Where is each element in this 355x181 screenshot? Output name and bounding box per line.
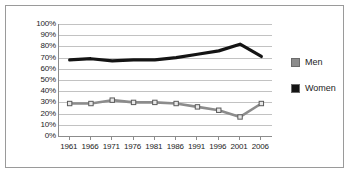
series-line-women	[70, 44, 262, 61]
y-axis-tick-label: 40%	[18, 87, 56, 95]
series-layer	[59, 24, 272, 136]
data-point-marker	[67, 101, 71, 105]
data-point-marker	[238, 115, 242, 119]
y-axis-tick-label: 100%	[18, 20, 56, 28]
x-axis-tick	[154, 136, 155, 140]
plot-area	[58, 24, 272, 137]
y-axis-tick-label: 70%	[18, 54, 56, 62]
y-axis-tick-label: 90%	[18, 31, 56, 39]
legend-label-women: Women	[305, 83, 336, 93]
data-point-marker	[89, 101, 93, 105]
legend-swatch-women	[291, 84, 300, 93]
x-axis-ticks	[58, 136, 272, 140]
y-axis-tick-label: 0%	[18, 132, 56, 140]
legend-item-men: Men	[291, 52, 345, 72]
data-point-marker	[259, 101, 263, 105]
y-axis-tick-label: 50%	[18, 76, 56, 84]
chart-container: 100%90%80%70%60%50%40%30%20%10%0% 196119…	[5, 5, 344, 168]
y-axis: 100%90%80%70%60%50%40%30%20%10%0%	[14, 6, 56, 167]
x-axis-tick	[69, 136, 70, 140]
y-axis-tick-label: 60%	[18, 65, 56, 73]
x-axis-tick-label: 2006	[245, 142, 275, 152]
chart-legend: Men Women	[291, 52, 345, 104]
data-point-marker	[110, 98, 114, 102]
x-axis-tick	[239, 136, 240, 140]
x-axis-tick	[196, 136, 197, 140]
y-axis-tick-label: 10%	[18, 121, 56, 129]
x-axis-tick	[90, 136, 91, 140]
data-point-marker	[174, 101, 178, 105]
y-axis-tick-label: 20%	[18, 110, 56, 118]
data-point-marker	[153, 100, 157, 104]
data-point-marker	[131, 100, 135, 104]
series-line-men	[70, 100, 262, 117]
x-axis: 1961196619711976198119861991199620012006	[58, 142, 272, 154]
x-axis-tick	[133, 136, 134, 140]
legend-swatch-men	[291, 58, 300, 67]
x-axis-tick	[218, 136, 219, 140]
data-point-marker	[217, 108, 221, 112]
x-axis-tick	[260, 136, 261, 140]
chart-plot-wrapper: 100%90%80%70%60%50%40%30%20%10%0% 196119…	[6, 6, 345, 167]
x-axis-tick	[175, 136, 176, 140]
data-point-marker	[195, 105, 199, 109]
x-axis-tick	[111, 136, 112, 140]
legend-label-men: Men	[305, 57, 323, 67]
y-axis-tick-label: 30%	[18, 98, 56, 106]
y-axis-tick-label: 80%	[18, 42, 56, 50]
legend-item-women: Women	[291, 78, 345, 98]
